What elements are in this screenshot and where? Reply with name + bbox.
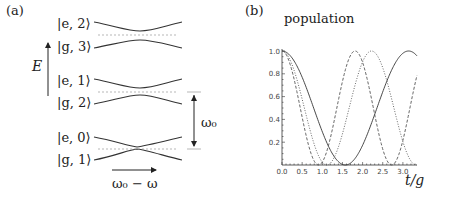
y-tick-label: 0.8 [269, 70, 280, 78]
series-dashed [282, 51, 417, 165]
x-tick-label: 3.0 [397, 168, 408, 176]
x-tick-label: 1.0 [317, 168, 328, 176]
y-tick-label: 0.6 [269, 93, 281, 101]
x-tick-label: 0.0 [276, 168, 287, 176]
x-tick-label: 0.5 [297, 168, 308, 176]
y-tick-label: 1.0 [269, 48, 280, 56]
y-tick-label: 0.2 [269, 139, 280, 147]
x-tick-label: 2.0 [357, 168, 368, 176]
series-dotted [282, 51, 417, 165]
population-chart: 0.00.51.01.52.02.53.00.20.40.60.81.0 [0, 0, 464, 198]
x-tick-label: 1.5 [337, 168, 348, 176]
x-tick-label: 2.5 [377, 168, 388, 176]
series-solid [282, 51, 417, 165]
y-tick-label: 0.4 [269, 116, 281, 124]
